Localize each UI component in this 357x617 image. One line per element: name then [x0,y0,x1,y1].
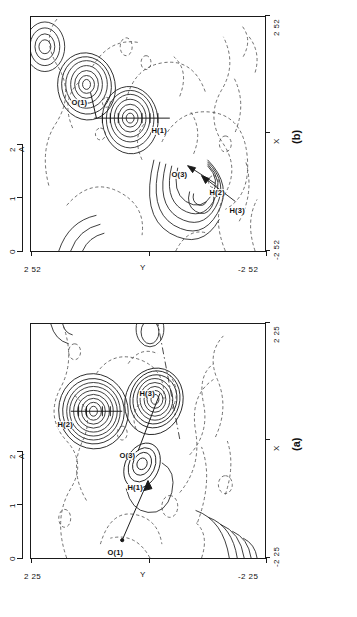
yaxis-max-b: 2 52 [24,265,41,274]
xaxis-min-b: -2 52 [272,240,281,260]
panel-b: 0 1 2 A [0,4,357,304]
xaxis-min-a: -2 25 [272,547,281,567]
yaxis-label-a: Y [140,570,146,579]
atom-label-h3-b: H(3) [229,207,245,215]
figure-canvas: 0 1 2 A [0,0,357,617]
atom-label-h2-b: H(2) [209,189,225,197]
atom-label-o1-a: O(1) [107,549,124,557]
scale-bar-line [22,451,23,559]
atom-label-h1-a: H(1) [127,484,143,492]
atom-label-h1-b: H(1) [151,127,167,135]
scale-tick-1-b: 1 [8,197,17,201]
contour-plot-b: O(1) H(1) O(3) H(2) H(3) [30,16,266,252]
scale-tick-1: 1 [8,504,17,508]
scale-bar-a: 0 1 2 A [10,451,26,559]
yaxis-label-b: Y [140,263,146,272]
atom-label-o1-b: O(1) [71,99,88,107]
panel-tag-a: (a) [290,438,302,451]
scale-tick-2: 2 A [8,451,26,459]
xaxis-label-a: X [272,445,281,451]
atom-label-o3-a: O(3) [119,452,136,460]
scale-bar-line-b [22,144,23,252]
scale-tick-2-b: 2 A [8,144,26,152]
panel-tag-b: (b) [290,130,302,144]
atom-label-h3-a: H(3) [139,390,155,398]
scale-tick-0-b: 0 [8,250,17,254]
atom-label-h2-a: H(2) [57,421,73,429]
xaxis-max-b: 2 52 [272,19,281,36]
contour-plot-a: O(1) H(1) H(2) O(3) H(3) [30,323,266,559]
xaxis-label-b: X [272,138,281,144]
yaxis-min-b: -2 52 [238,265,258,274]
atom-label-o3-b: O(3) [171,171,188,179]
yaxis-max-a: 2 25 [24,572,41,581]
yaxis-min-a: -2 25 [238,572,258,581]
xaxis-max-a: 2 25 [272,326,281,343]
scale-bar-b: 0 1 2 A [10,144,26,252]
scale-tick-0: 0 [8,557,17,561]
panel-a: 0 1 2 A [0,311,357,611]
